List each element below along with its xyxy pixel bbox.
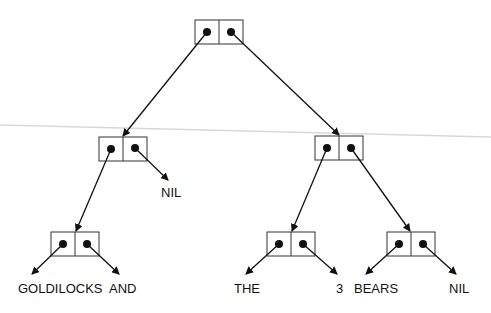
- cons-cell-right-right: [387, 232, 435, 256]
- arrow-root-cdr: [231, 32, 339, 135]
- label-three: 3: [336, 281, 343, 296]
- arrow-root-car: [123, 32, 207, 136]
- label-nil-left: NIL: [161, 185, 181, 200]
- arrow-rr-cdr: [423, 244, 456, 274]
- arrow-right-car: [292, 148, 327, 231]
- cons-cell-right-left: [267, 232, 315, 256]
- arrow-left-cdr: [135, 148, 168, 180]
- cons-cell-tree-diagram: NIL GOLDILOCKS AND THE 3 BEARS NIL: [0, 0, 491, 313]
- label-and: AND: [109, 281, 136, 296]
- cons-cell-right: [315, 136, 363, 160]
- label-nil-right: NIL: [449, 281, 469, 296]
- cons-cell-left-left: [51, 232, 99, 256]
- label-bears: BEARS: [354, 281, 398, 296]
- cons-cell-root: [195, 20, 243, 44]
- cons-cell-left: [99, 137, 147, 161]
- arrow-rr-car: [366, 244, 399, 274]
- arrow-rl-car: [246, 244, 279, 274]
- arrow-left-car: [76, 149, 111, 231]
- arrow-ll-cdr: [87, 244, 119, 274]
- scan-artifact-line: [0, 125, 491, 137]
- label-goldilocks: GOLDILOCKS: [18, 281, 103, 296]
- arrow-rl-cdr: [303, 244, 337, 274]
- arrow-ll-car: [32, 244, 63, 274]
- label-the: THE: [234, 281, 260, 296]
- arrow-right-cdr: [351, 148, 410, 231]
